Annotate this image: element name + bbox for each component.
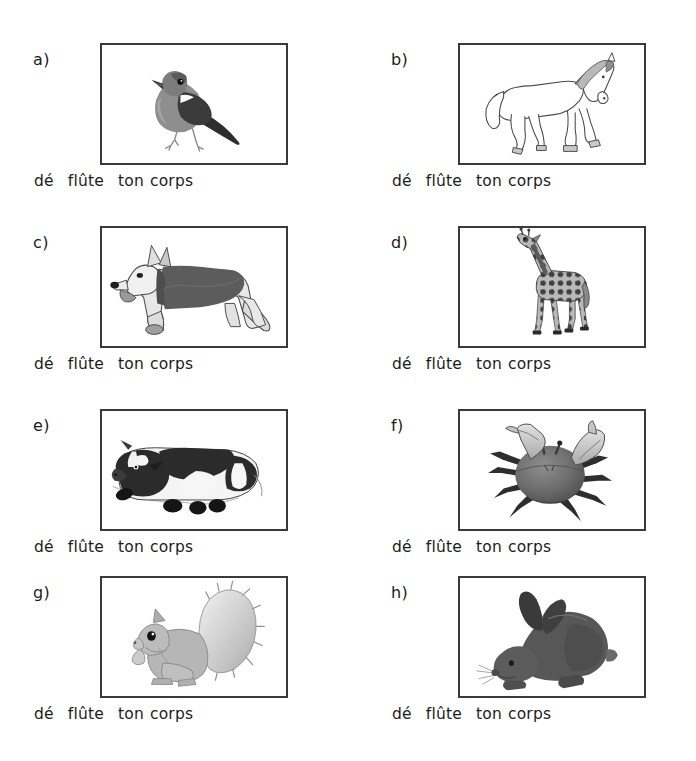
panel-b-caption: déflûtetoncorps <box>392 172 692 190</box>
rabbit-icon <box>460 578 644 696</box>
caption-word-1: dé <box>392 538 412 556</box>
caption-word-2: flûte <box>426 538 462 556</box>
caption-word-4: corps <box>150 538 193 556</box>
caption-word-3: ton <box>476 538 502 556</box>
worksheet-page: a) <box>0 0 696 761</box>
caption-word-1: dé <box>392 705 412 723</box>
bird-icon <box>102 45 286 163</box>
caption-word-1: dé <box>34 538 54 556</box>
panel-e: e) <box>0 408 348 579</box>
panel-c-image-box <box>100 226 288 348</box>
panel-g-caption: déflûtetoncorps <box>34 705 334 723</box>
squirrel-icon <box>102 578 286 696</box>
horse-icon <box>460 45 644 163</box>
caption-word-4: corps <box>150 705 193 723</box>
crab-icon <box>460 411 644 529</box>
panel-f-image-box <box>458 409 646 531</box>
giraffe-icon <box>460 228 644 346</box>
caption-word-3: ton <box>118 705 144 723</box>
caption-word-4: corps <box>508 172 551 190</box>
caption-word-1: dé <box>34 705 54 723</box>
panel-b: b) <box>358 42 696 213</box>
panel-a-caption: déflûtetoncorps <box>34 172 334 190</box>
caption-word-2: flûte <box>426 172 462 190</box>
panel-c: c) <box>0 225 348 396</box>
caption-word-4: corps <box>508 538 551 556</box>
panel-d: d) <box>358 225 696 396</box>
panel-h-caption: déflûtetoncorps <box>392 705 692 723</box>
panel-a-image-box <box>100 43 288 165</box>
caption-word-1: dé <box>34 172 54 190</box>
caption-word-1: dé <box>34 355 54 373</box>
panel-d-image-box <box>458 226 646 348</box>
panel-grid: a) <box>0 0 696 761</box>
panel-a-label: a) <box>33 50 50 69</box>
panel-h-image-box <box>458 576 646 698</box>
caption-word-2: flûte <box>426 705 462 723</box>
panel-h-label: h) <box>391 583 408 602</box>
caption-word-4: corps <box>508 355 551 373</box>
panel-g: g) <box>0 575 348 746</box>
caption-word-1: dé <box>392 355 412 373</box>
caption-word-4: corps <box>150 172 193 190</box>
panel-f-label: f) <box>391 416 404 435</box>
caption-word-3: ton <box>476 705 502 723</box>
panel-h: h) <box>358 575 696 746</box>
panel-c-caption: déflûtetoncorps <box>34 355 334 373</box>
panel-d-label: d) <box>391 233 408 252</box>
caption-word-2: flûte <box>68 172 104 190</box>
caption-word-4: corps <box>508 705 551 723</box>
caption-word-3: ton <box>118 355 144 373</box>
panel-b-label: b) <box>391 50 408 69</box>
panel-g-image-box <box>100 576 288 698</box>
caption-word-3: ton <box>118 172 144 190</box>
panel-b-image-box <box>458 43 646 165</box>
panel-a: a) <box>0 42 348 213</box>
panel-d-caption: déflûtetoncorps <box>392 355 692 373</box>
caption-word-3: ton <box>118 538 144 556</box>
panel-f: f) <box>358 408 696 579</box>
panel-f-caption: déflûtetoncorps <box>392 538 692 556</box>
panel-c-label: c) <box>33 233 49 252</box>
panel-e-caption: déflûtetoncorps <box>34 538 334 556</box>
caption-word-3: ton <box>476 172 502 190</box>
caption-word-2: flûte <box>68 705 104 723</box>
caption-word-2: flûte <box>426 355 462 373</box>
panel-e-image-box <box>100 409 288 531</box>
dog-icon <box>102 228 286 346</box>
caption-word-4: corps <box>150 355 193 373</box>
caption-word-2: flûte <box>68 355 104 373</box>
panel-g-label: g) <box>33 583 50 602</box>
caption-word-1: dé <box>392 172 412 190</box>
caption-word-3: ton <box>476 355 502 373</box>
panel-e-label: e) <box>33 416 50 435</box>
cow-icon <box>102 411 286 529</box>
caption-word-2: flûte <box>68 538 104 556</box>
